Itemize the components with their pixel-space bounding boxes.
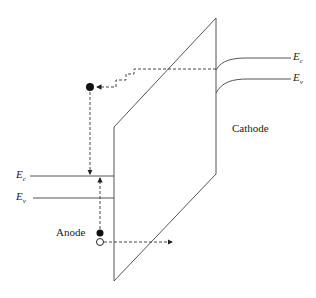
cathode-ec-label: Ec [293, 50, 303, 65]
electron-tunneling-path [97, 69, 216, 87]
cathode-valence-band [216, 79, 291, 93]
band-diagram [0, 0, 316, 298]
cathode-conduction-band [216, 58, 291, 70]
hole-dot [97, 239, 104, 246]
anode-ec-label: Ec [16, 168, 26, 183]
electron-dot-lower [97, 230, 104, 237]
anode-label: Anode [56, 226, 85, 238]
cathode-label: Cathode [232, 122, 269, 134]
anode-ev-label: Ev [16, 190, 26, 205]
cathode-ev-label: Ev [293, 71, 303, 86]
electron-dot-upper [86, 83, 94, 91]
